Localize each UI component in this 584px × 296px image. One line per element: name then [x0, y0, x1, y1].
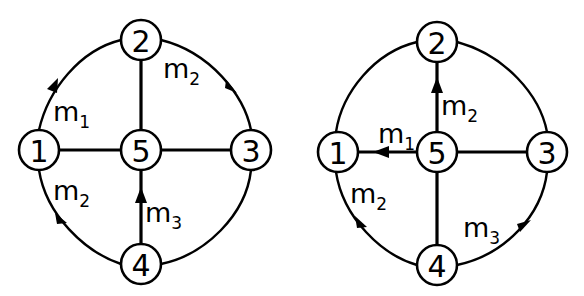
label-m3: m3	[463, 212, 500, 248]
graph-figure: m1 m2 m2 m3 1 2 3 4 5	[0, 0, 584, 296]
node-2: 2	[417, 22, 457, 62]
arc-1-2	[336, 42, 417, 132]
svg-text:5: 5	[131, 134, 150, 169]
node-2: 2	[121, 20, 161, 60]
node-4: 4	[121, 244, 161, 284]
label-m2-arc: m2	[350, 178, 387, 214]
node-5: 5	[417, 132, 457, 172]
arrow-1-to-4-icon	[55, 213, 67, 224]
arc-1-4	[39, 170, 121, 264]
arrow-1-to-4-icon	[355, 216, 367, 228]
svg-text:5: 5	[427, 136, 446, 171]
label-m2-spoke: m2	[441, 90, 478, 126]
label-m2-top: m2	[163, 53, 200, 89]
svg-text:3: 3	[537, 136, 556, 171]
label-m1: m1	[53, 96, 90, 132]
svg-text:1: 1	[29, 134, 48, 169]
node-3: 3	[231, 130, 271, 170]
label-m3: m3	[145, 197, 182, 233]
node-1: 1	[19, 130, 59, 170]
node-4: 4	[417, 245, 457, 285]
svg-text:2: 2	[427, 26, 446, 61]
svg-text:4: 4	[131, 248, 150, 283]
svg-text:4: 4	[427, 249, 446, 284]
svg-text:3: 3	[241, 134, 260, 169]
node-3: 3	[527, 132, 567, 172]
arc-1-4	[336, 172, 417, 265]
label-m2-bottom: m2	[53, 175, 90, 211]
svg-text:1: 1	[328, 136, 347, 171]
right-diagram: m1 m2 m2 m3 1 2 3 4 5	[318, 22, 567, 285]
node-5: 5	[121, 130, 161, 170]
label-m1: m1	[378, 118, 415, 154]
left-diagram: m1 m2 m2 m3 1 2 3 4 5	[19, 20, 271, 284]
svg-text:2: 2	[131, 24, 150, 59]
arrow-2-to-3-icon	[225, 80, 237, 93]
arrow-1-to-2-icon	[47, 78, 58, 93]
node-1: 1	[318, 132, 358, 172]
